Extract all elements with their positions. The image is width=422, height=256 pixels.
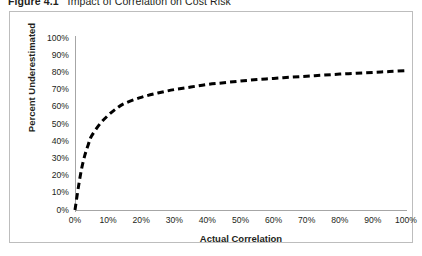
figure-number: Figure 4.1 [8,0,59,7]
y-tick-label: 20% [31,171,69,180]
x-tick-label: 100% [386,215,422,225]
y-tick-label: 30% [31,154,69,163]
y-tick-label: 60% [31,102,69,111]
y-tick-label: 10% [31,188,69,197]
x-axis-title: Actual Correlation [75,233,407,244]
y-tick-label: 40% [31,137,69,146]
y-tick-label: 80% [31,68,69,77]
chart-frame: Percent Underestimated 0%10%20%30%40%50%… [9,11,413,243]
plot-area [75,38,406,210]
correlation-curve [75,38,406,210]
curve-line [75,71,406,210]
x-axis-line [75,210,407,211]
figure-title: Impact of Correlation on Cost Risk [68,0,231,7]
y-tick-label: 0% [31,206,69,215]
figure-caption: Figure 4.1Impact of Correlation on Cost … [8,0,418,9]
y-tick-label: 70% [31,85,69,94]
y-tick-label: 90% [31,51,69,60]
y-tick-label: 50% [31,120,69,129]
figure-container: Figure 4.1Impact of Correlation on Cost … [0,0,422,256]
y-tick-label: 100% [31,34,69,43]
